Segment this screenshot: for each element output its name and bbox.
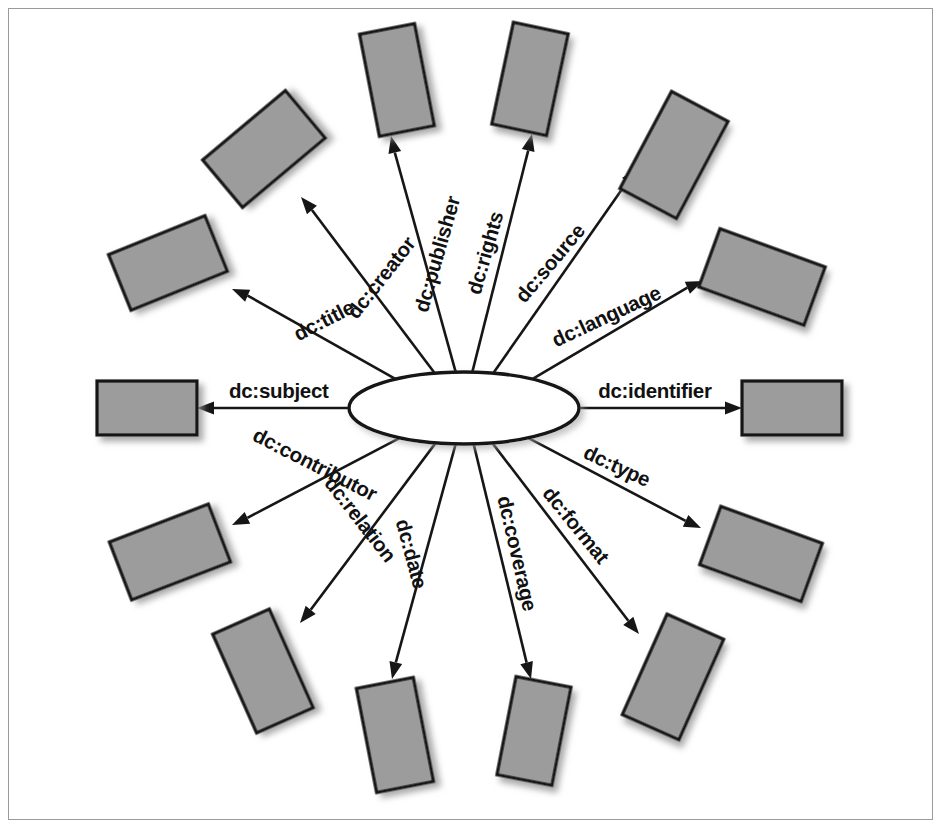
- edge-label-dc-language: dc:language: [548, 281, 664, 351]
- arrow-head: [683, 515, 701, 528]
- arrow-head: [232, 289, 250, 302]
- node-box-dc-contributor: [109, 504, 230, 600]
- edge-label-dc-subject: dc:subject: [229, 379, 329, 402]
- edge-label-dc-rights: dc:rights: [462, 209, 508, 297]
- node-box-dc-creator: [203, 91, 326, 208]
- node-box-dc-title: [109, 216, 228, 311]
- node-box-dc-language: [699, 229, 825, 326]
- arrow-head: [388, 136, 401, 154]
- node-box-dc-date: [356, 677, 433, 792]
- arrow-head: [522, 134, 535, 152]
- edge-label-dc-contributor: dc:contributor: [249, 423, 381, 505]
- node-box-dc-coverage: [497, 677, 571, 786]
- figure-frame: dc:subjectdc:titledc:creatordc:publisher…: [8, 8, 933, 820]
- center-ellipse: [349, 372, 579, 444]
- radial-diagram-canvas: dc:subjectdc:titledc:creatordc:publisher…: [9, 9, 934, 821]
- edge-label-dc-creator: dc:creator: [342, 232, 420, 323]
- arrow-head: [389, 661, 402, 679]
- node-box-dc-relation: [213, 609, 314, 733]
- arrow-head: [232, 512, 250, 525]
- node-box-dc-source: [620, 91, 728, 218]
- diagram-page: dc:subjectdc:titledc:creatordc:publisher…: [0, 0, 941, 834]
- node-box-dc-subject: [97, 381, 197, 435]
- edge-dc-identifier: [579, 402, 742, 415]
- node-box-dc-publisher: [360, 24, 435, 137]
- edge-dc-subject: [197, 402, 349, 415]
- node-box-dc-type: [700, 506, 823, 601]
- node-box-dc-identifier: [742, 381, 842, 435]
- arrow-head: [197, 402, 214, 415]
- node-box-dc-rights: [492, 22, 568, 135]
- hub-layer: [349, 372, 579, 444]
- edge-label-dc-identifier: dc:identifier: [598, 379, 712, 402]
- arrow-head: [725, 402, 742, 415]
- edge-label-dc-type: dc:type: [580, 440, 654, 491]
- edge-label-dc-publisher: dc:publisher: [409, 193, 464, 314]
